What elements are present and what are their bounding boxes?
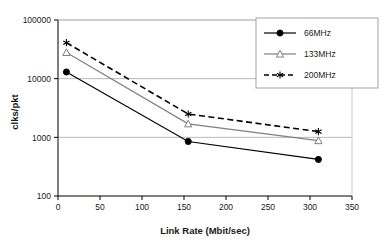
y-tick-label: 100: [37, 191, 51, 201]
y-tick-label: 10000: [27, 74, 51, 84]
x-tick-label: 250: [261, 202, 275, 212]
x-tick-label: 100: [135, 202, 149, 212]
x-tick-label: 200: [219, 202, 233, 212]
chart-container: 050100150200250300350 100100010000100000…: [0, 0, 385, 243]
x-tick-label: 50: [95, 202, 105, 212]
legend-marker-66MHz: [277, 30, 283, 36]
chart-legend: 66MHz133MHz200MHz: [256, 18, 378, 88]
y-axis-title: clks/pkt: [9, 93, 20, 129]
legend-label-200MHz: 200MHz: [304, 70, 336, 80]
x-tick-label: 0: [56, 202, 61, 212]
legend-label-66MHz: 66MHz: [304, 28, 331, 38]
data-point-66MHz: [315, 156, 321, 162]
x-axis-title: Link Rate (Mbit/sec): [160, 225, 250, 236]
x-tick-label: 150: [177, 202, 191, 212]
line-chart: 050100150200250300350 100100010000100000…: [0, 0, 385, 243]
y-tick-label: 1000: [32, 133, 51, 143]
x-tick-label: 300: [303, 202, 317, 212]
legend-label-133MHz: 133MHz: [304, 49, 336, 59]
data-point-66MHz: [63, 69, 69, 75]
x-tick-label: 350: [345, 202, 359, 212]
y-tick-label: 100000: [23, 15, 52, 25]
data-point-66MHz: [185, 138, 191, 144]
